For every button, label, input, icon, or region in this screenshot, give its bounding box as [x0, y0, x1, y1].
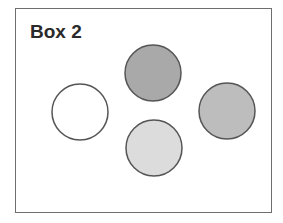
circle-left	[52, 84, 108, 140]
circle-bottom	[126, 120, 182, 176]
circles-group	[0, 0, 283, 223]
circle-right	[199, 83, 255, 139]
circle-top	[125, 45, 181, 101]
